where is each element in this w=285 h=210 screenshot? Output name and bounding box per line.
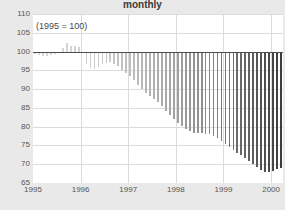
- bar: [260, 52, 262, 170]
- bar: [221, 52, 223, 141]
- bar: [205, 52, 207, 134]
- y-axis-tick-label: 110: [2, 10, 30, 18]
- x-axis-tick-label: 1999: [203, 185, 243, 194]
- bar: [280, 52, 282, 169]
- y-axis-tick-label: 90: [2, 85, 30, 93]
- y-axis-tick-label: 80: [2, 123, 30, 131]
- bar: [113, 52, 115, 64]
- bar: [153, 52, 155, 99]
- baseline-100: [33, 52, 283, 53]
- bar: [256, 52, 258, 167]
- bar: [133, 52, 135, 81]
- plot-area: [33, 14, 283, 183]
- bar: [102, 52, 104, 65]
- gridline-horizontal: [33, 14, 283, 15]
- bar: [268, 52, 270, 173]
- bar: [185, 52, 187, 129]
- x-axis-tick-label: 1995: [13, 185, 53, 194]
- chart-figure: monthly 11010510095908580757065 (1995 = …: [0, 0, 285, 210]
- y-axis-tick-label: 75: [2, 141, 30, 149]
- bar: [181, 52, 183, 127]
- bar: [66, 43, 68, 52]
- y-axis-tick-label: 105: [2, 29, 30, 37]
- bar: [161, 52, 163, 107]
- gridline-vertical: [81, 14, 82, 183]
- bar: [248, 52, 250, 162]
- bar: [141, 52, 143, 89]
- bar: [213, 52, 215, 136]
- bar: [177, 52, 179, 123]
- bar: [70, 46, 72, 51]
- bar: [149, 52, 151, 96]
- bar: [272, 52, 274, 172]
- bar: [189, 52, 191, 132]
- bar: [264, 52, 266, 172]
- bar: [197, 52, 199, 133]
- bar: [121, 52, 123, 70]
- bar: [240, 52, 242, 156]
- bar: [62, 48, 64, 52]
- bar: [145, 52, 147, 93]
- y-axis-tick-label: 85: [2, 104, 30, 112]
- x-axis-tick-label: 1997: [108, 185, 148, 194]
- bar: [193, 52, 195, 133]
- bar: [157, 52, 159, 103]
- bar: [98, 52, 100, 67]
- bar: [165, 52, 167, 111]
- bar: [217, 52, 219, 138]
- gridline-horizontal: [33, 164, 283, 165]
- index-base-annotation: (1995 = 100): [36, 21, 87, 31]
- bar: [169, 52, 171, 115]
- bar: [233, 52, 235, 150]
- chart-title: monthly: [0, 0, 285, 10]
- bar: [244, 52, 246, 159]
- bar: [129, 52, 131, 77]
- x-axis-tick-label: 2000: [251, 185, 285, 194]
- x-axis-tick-label: 1996: [61, 185, 101, 194]
- y-axis-tick-label: 100: [2, 48, 30, 56]
- bar: [74, 46, 76, 52]
- bar: [173, 52, 175, 119]
- bar: [252, 52, 254, 164]
- gridline-vertical: [128, 14, 129, 183]
- y-axis-tick-label: 70: [2, 160, 30, 168]
- bar: [225, 52, 227, 144]
- bar: [117, 52, 119, 67]
- bar: [236, 52, 238, 153]
- bar: [209, 52, 211, 135]
- y-axis-tick-label: 95: [2, 66, 30, 74]
- bar: [125, 52, 127, 73]
- x-axis-tick-label: 1998: [156, 185, 196, 194]
- gridline-horizontal: [33, 33, 283, 34]
- bar: [94, 52, 96, 69]
- bar: [229, 52, 231, 147]
- bar: [109, 52, 111, 62]
- bar: [86, 52, 88, 64]
- bar: [106, 52, 108, 63]
- bar: [90, 52, 92, 69]
- x-axis-tick-labels: 199519961997199819992000: [33, 185, 283, 201]
- bar: [78, 47, 80, 52]
- bar: [276, 52, 278, 170]
- y-axis-tick-labels: 11010510095908580757065: [0, 14, 30, 183]
- bar: [137, 52, 139, 85]
- bar: [201, 52, 203, 134]
